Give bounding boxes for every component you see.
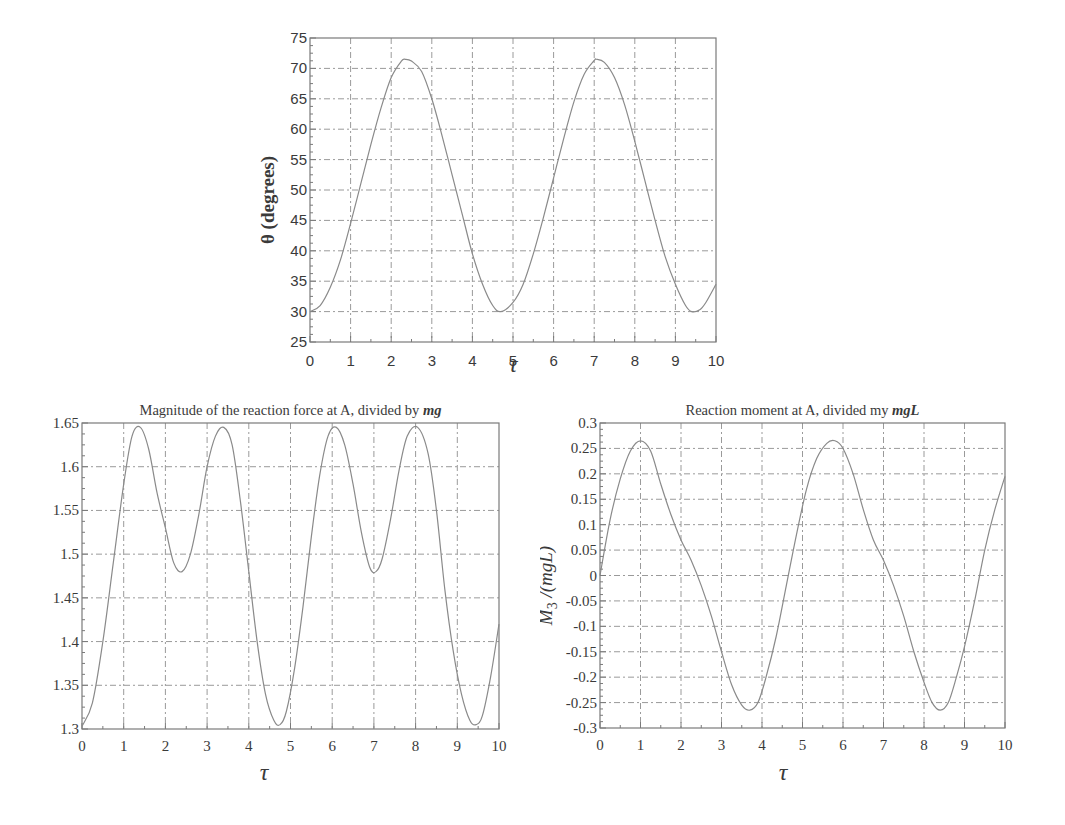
y-tick-label: 1.5 bbox=[60, 546, 79, 562]
y-tick-label: 30 bbox=[290, 303, 307, 320]
y-tick-label: 70 bbox=[290, 59, 307, 76]
x-tick-label: 0 bbox=[306, 352, 314, 369]
y-tick-label: 1.65 bbox=[53, 415, 79, 431]
y-tick-label: 1.4 bbox=[60, 634, 79, 650]
y-tick-label: 25 bbox=[290, 333, 307, 350]
x-tick-label: 3 bbox=[428, 352, 436, 369]
theta-plot: 0123456789102530354045505560657075τθ (de… bbox=[0, 0, 1065, 385]
y-tick-label: 35 bbox=[290, 272, 307, 289]
y-axis-title-rest: /(mgL) bbox=[540, 546, 557, 602]
y-tick-label: 75 bbox=[290, 29, 307, 46]
y-tick-label: 0.25 bbox=[571, 440, 597, 456]
chart-title-text: Magnitude of the reaction force at A, di… bbox=[140, 402, 423, 418]
x-tick-label: 4 bbox=[245, 738, 253, 754]
grid-lines bbox=[310, 38, 716, 342]
x-tick-label: 6 bbox=[549, 352, 557, 369]
y-tick-label: -0.1 bbox=[573, 618, 597, 634]
x-tick-label: 10 bbox=[492, 738, 507, 754]
y-axis: 2530354045505560657075 bbox=[290, 29, 316, 350]
force-plot: 0123456789101.31.351.41.451.51.551.61.65… bbox=[0, 385, 540, 825]
x-tick-label: 7 bbox=[880, 737, 888, 753]
x-tick-label: 3 bbox=[203, 738, 211, 754]
x-tick-label: 4 bbox=[758, 737, 766, 753]
y-tick-label: 1.6 bbox=[60, 459, 79, 475]
y-tick-label: 45 bbox=[290, 211, 307, 228]
y-tick-label: 1.45 bbox=[53, 590, 79, 606]
x-tick-label: 5 bbox=[287, 738, 295, 754]
y-tick-label: 0.05 bbox=[571, 542, 597, 558]
minor-ticks bbox=[82, 434, 478, 729]
x-tick-label: 0 bbox=[596, 737, 604, 753]
y-tick-label: 60 bbox=[290, 120, 307, 137]
y-tick-label: 50 bbox=[290, 181, 307, 198]
y-axis-title-sub: 3 bbox=[545, 602, 560, 609]
x-tick-label: 6 bbox=[328, 738, 336, 754]
x-tick-label: 4 bbox=[468, 352, 476, 369]
y-tick-label: 0.1 bbox=[578, 517, 597, 533]
chart-title-italic: mgL bbox=[892, 402, 920, 418]
y-tick-label: 1.55 bbox=[53, 502, 79, 518]
y-tick-label: -0.15 bbox=[566, 644, 597, 660]
y-tick-label: 0.15 bbox=[571, 491, 597, 507]
y-axis-title: θ (degrees) bbox=[257, 156, 279, 244]
x-tick-label: 2 bbox=[162, 738, 170, 754]
x-tick-label: 0 bbox=[78, 738, 86, 754]
minor-ticks bbox=[310, 46, 696, 342]
x-axis-title: τ bbox=[779, 759, 789, 785]
x-tick-label: 9 bbox=[961, 737, 969, 753]
x-tick-label: 1 bbox=[346, 352, 354, 369]
theta-chart: 0123456789102530354045505560657075τθ (de… bbox=[0, 0, 1065, 385]
chart-title: Reaction moment at A, divided my mgL bbox=[686, 402, 920, 418]
x-axis: 012345678910 bbox=[78, 723, 506, 754]
x-axis-title: τ bbox=[509, 351, 519, 377]
x-tick-label: 9 bbox=[671, 352, 679, 369]
chart-title-italic: mg bbox=[423, 402, 442, 418]
data-line bbox=[82, 426, 499, 726]
grid-lines bbox=[600, 423, 1005, 728]
x-axis: 012345678910 bbox=[596, 722, 1012, 753]
moment-chart: 012345678910-0.3-0.25-0.2-0.15-0.1-0.050… bbox=[540, 385, 1065, 825]
x-tick-label: 3 bbox=[718, 737, 726, 753]
force-chart: 0123456789101.31.351.41.451.51.551.61.65… bbox=[0, 385, 540, 825]
x-tick-label: 6 bbox=[839, 737, 847, 753]
y-tick-label: 0.2 bbox=[578, 466, 597, 482]
x-axis-title: τ bbox=[260, 759, 270, 785]
y-axis-title: M3 /(mgL) bbox=[540, 546, 560, 626]
x-tick-label: 9 bbox=[454, 738, 462, 754]
x-tick-label: 5 bbox=[799, 737, 807, 753]
y-tick-label: -0.05 bbox=[566, 593, 597, 609]
x-tick-label: 1 bbox=[637, 737, 645, 753]
y-tick-label: -0.3 bbox=[573, 720, 597, 736]
grid-lines bbox=[82, 423, 499, 729]
x-tick-label: 8 bbox=[920, 737, 928, 753]
x-tick-label: 10 bbox=[708, 352, 725, 369]
moment-plot: 012345678910-0.3-0.25-0.2-0.15-0.1-0.050… bbox=[540, 385, 1065, 825]
x-tick-label: 1 bbox=[120, 738, 128, 754]
x-tick-label: 8 bbox=[412, 738, 420, 754]
x-tick-label: 2 bbox=[677, 737, 685, 753]
chart-title-text: Reaction moment at A, divided my bbox=[686, 402, 893, 418]
y-tick-label: 0 bbox=[590, 568, 598, 584]
y-tick-label: 1.35 bbox=[53, 677, 79, 693]
y-axis-title-main: M bbox=[540, 608, 556, 626]
y-tick-label: 65 bbox=[290, 90, 307, 107]
y-tick-label: -0.25 bbox=[566, 695, 597, 711]
x-tick-label: 2 bbox=[387, 352, 395, 369]
x-tick-label: 10 bbox=[998, 737, 1013, 753]
x-tick-label: 7 bbox=[590, 352, 598, 369]
x-tick-label: 8 bbox=[631, 352, 639, 369]
y-tick-label: 40 bbox=[290, 242, 307, 259]
x-tick-label: 7 bbox=[370, 738, 378, 754]
y-tick-label: 55 bbox=[290, 151, 307, 168]
chart-title: Magnitude of the reaction force at A, di… bbox=[140, 402, 442, 418]
y-tick-label: -0.2 bbox=[573, 669, 597, 685]
y-tick-label: 0.3 bbox=[578, 415, 597, 431]
y-tick-label: 1.3 bbox=[60, 721, 79, 737]
